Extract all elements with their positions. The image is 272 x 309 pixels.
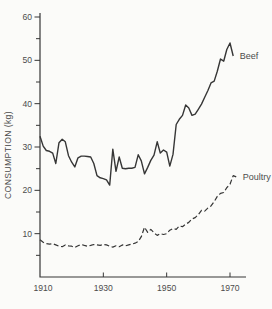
x-tick-label: 1910 — [33, 283, 52, 293]
y-tick-label: 20 — [22, 185, 32, 195]
x-tick-label: 1930 — [94, 283, 113, 293]
consumption-chart: CONSUMPTION (kg) 10203040506019101930195… — [0, 0, 272, 309]
y-tick-label: 50 — [22, 55, 32, 65]
chart-figure: CONSUMPTION (kg) 10203040506019101930195… — [0, 0, 272, 309]
y-axis-title: CONSUMPTION (kg) — [3, 111, 13, 199]
beef-line — [40, 43, 233, 185]
poultry-label: Poultry — [243, 172, 272, 182]
x-tick-label: 1970 — [220, 283, 239, 293]
y-tick-label: 30 — [22, 142, 32, 152]
y-tick-label: 10 — [22, 229, 32, 239]
poultry-line — [40, 176, 236, 248]
beef-label: Beef — [240, 51, 259, 61]
y-tick-label: 40 — [22, 99, 32, 109]
axes — [40, 13, 246, 277]
x-tick-label: 1950 — [157, 283, 176, 293]
y-tick-label: 60 — [22, 12, 32, 22]
